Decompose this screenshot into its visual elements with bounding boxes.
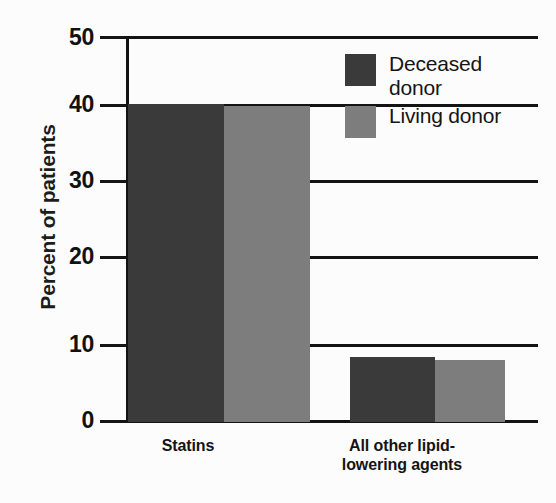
y-tick-mark-0 [100,420,126,423]
y-tick-mark-30 [100,180,126,183]
bar-other-agents-deceased-donor [350,357,435,422]
y-tick-label-40: 40 [48,93,94,116]
y-tick-label-20: 20 [48,245,94,268]
legend-item-living-donor: Living donor [345,104,556,138]
y-tick-label-0: 0 [48,409,94,432]
y-tick-mark-10 [100,344,126,347]
legend-swatch-deceased-donor [345,54,376,86]
legend-label-deceased-donor: Deceased donor [389,52,482,99]
bar-other-agents-living-donor [435,360,505,422]
y-axis-tick-labels: 50 40 30 20 10 0 [38,0,94,503]
y-tick-mark-20 [100,256,126,259]
bar-chart-figure: Percent of patients 50 40 30 20 10 0 Dec [0,0,556,503]
x-axis-label-statins: Statins [128,437,248,456]
x-axis-label-all-other-lipid-lowering-agents: All other lipid- lowering agents [312,437,492,475]
y-tick-label-10: 10 [48,333,94,356]
legend-swatch-living-donor [345,106,376,138]
y-tick-mark-40 [100,104,126,107]
chart-legend: Deceased donor Living donor [345,52,556,143]
bar-statins-deceased-donor [128,104,224,422]
gridline-50 [126,36,538,39]
legend-item-deceased-donor: Deceased donor [345,52,556,99]
y-tick-label-50: 50 [48,26,94,49]
legend-label-living-donor: Living donor [389,104,501,128]
y-tick-label-30: 30 [48,169,94,192]
bar-statins-living-donor [224,106,310,422]
y-tick-mark-50 [100,36,126,39]
